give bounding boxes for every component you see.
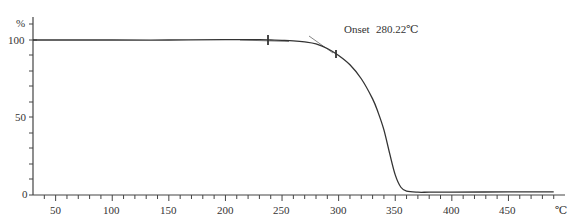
x-tick-label-50: 50 bbox=[50, 204, 62, 216]
x-tick-label-400: 400 bbox=[443, 204, 460, 216]
x-unit-label: ℃ bbox=[555, 204, 567, 216]
y-unit-label: % bbox=[16, 17, 25, 29]
x-tick-label-350: 350 bbox=[386, 204, 403, 216]
onset-label: Onset bbox=[344, 23, 370, 35]
x-tick-label-100: 100 bbox=[103, 204, 120, 216]
x-tick-label-450: 450 bbox=[499, 204, 516, 216]
x-tick-label-200: 200 bbox=[217, 204, 234, 216]
x-tick-label-150: 150 bbox=[160, 204, 177, 216]
tangent-line-slope bbox=[309, 36, 333, 53]
x-ticks bbox=[44, 195, 553, 201]
y-tick-label-50: 50 bbox=[15, 111, 27, 123]
x-tick-label-250: 250 bbox=[273, 204, 290, 216]
y-tick-label-100: 100 bbox=[8, 34, 25, 46]
tg-curve bbox=[33, 40, 554, 193]
y-tick-label-0: 0 bbox=[22, 188, 28, 200]
onset-value: 280.22℃ bbox=[376, 23, 419, 35]
tg-chart: % 100 50 0 50 100 150 200 250 300 350 40… bbox=[0, 0, 570, 222]
x-tick-label-300: 300 bbox=[330, 204, 347, 216]
